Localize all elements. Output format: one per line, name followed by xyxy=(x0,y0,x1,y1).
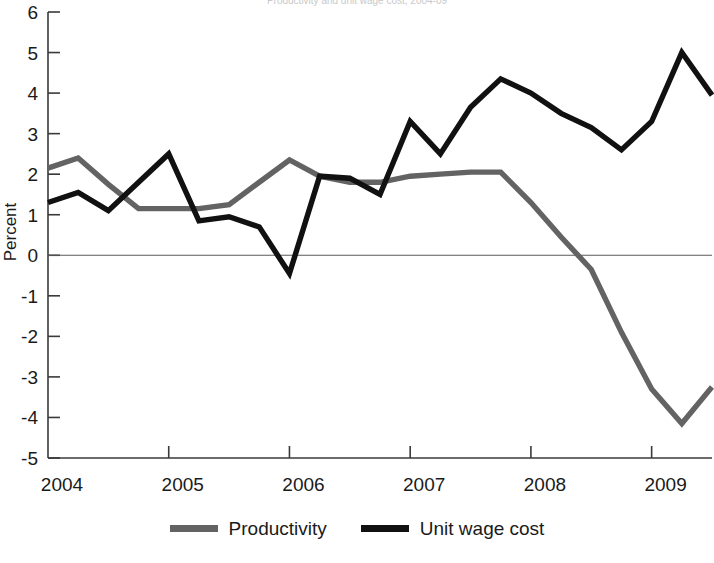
x-axis-tick-label: 2006 xyxy=(282,474,324,495)
y-axis-tick-label: -5 xyxy=(21,448,38,469)
legend-label: Unit wage cost xyxy=(420,519,545,538)
y-axis-group: 6543210-1-2-3-4-5 xyxy=(21,2,60,469)
legend-item[interactable]: Productivity xyxy=(170,519,327,538)
x-axis-group: 200420052006200720082009 xyxy=(41,446,712,495)
y-axis-tick-label: 2 xyxy=(27,164,38,185)
y-axis-tick-label: 3 xyxy=(27,124,38,145)
y-axis-tick-label: -2 xyxy=(21,326,38,347)
line-chart-plot: Productivity and unit wage cost, 2004-09… xyxy=(0,0,714,563)
y-axis-tick-label: 0 xyxy=(27,245,38,266)
y-axis-tick-label: 1 xyxy=(27,205,38,226)
legend-item[interactable]: Unit wage cost xyxy=(361,519,545,538)
chart-title-group: Productivity and unit wage cost, 2004-09 xyxy=(267,0,448,6)
y-axis-tick-label: 6 xyxy=(27,2,38,23)
y-axis-tick-label: -3 xyxy=(21,367,38,388)
series-line-productivity xyxy=(48,158,712,424)
y-axis-tick-label: -1 xyxy=(21,286,38,307)
x-axis-tick-label: 2007 xyxy=(403,474,445,495)
legend-swatch-icon xyxy=(170,525,218,532)
y-axis-title-group: Percent xyxy=(1,202,20,261)
y-axis-tick-label: -4 xyxy=(21,407,38,428)
chart-title: Productivity and unit wage cost, 2004-09 xyxy=(267,0,448,6)
x-axis-tick-label: 2005 xyxy=(162,474,204,495)
legend-swatch-icon xyxy=(361,525,409,532)
y-axis-title: Percent xyxy=(1,202,20,261)
y-axis-tick-label: 5 xyxy=(27,43,38,64)
legend-label: Productivity xyxy=(229,519,327,538)
x-axis-tick-label: 2009 xyxy=(644,474,686,495)
data-series-group xyxy=(48,53,712,424)
chart-container: Productivity and unit wage cost, 2004-09… xyxy=(0,0,714,563)
x-axis-tick-label: 2008 xyxy=(524,474,566,495)
y-axis-tick-label: 4 xyxy=(27,83,38,104)
chart-legend: ProductivityUnit wage cost xyxy=(0,519,714,538)
series-line-unit-wage-cost xyxy=(48,53,712,274)
x-axis-tick-label: 2004 xyxy=(41,474,84,495)
